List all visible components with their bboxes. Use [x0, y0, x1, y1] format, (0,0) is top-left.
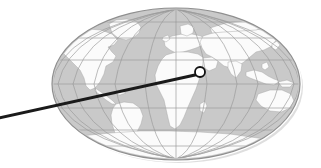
globe-illustration — [0, 0, 321, 168]
land-new-zealand — [297, 108, 305, 118]
land-alaska — [55, 36, 67, 45]
location-marker-icon — [195, 67, 205, 77]
world-map-figure — [0, 0, 321, 168]
